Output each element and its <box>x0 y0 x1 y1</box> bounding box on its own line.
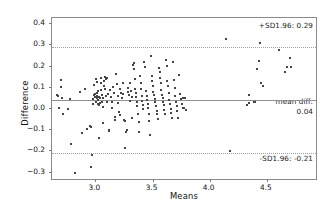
data-point <box>106 77 108 79</box>
data-point <box>163 109 165 111</box>
data-point <box>284 71 286 73</box>
data-point <box>81 132 83 134</box>
data-point <box>96 81 98 83</box>
reference-line-mean-diff <box>52 100 316 101</box>
data-point <box>178 74 180 76</box>
data-point <box>142 108 144 110</box>
y-tick-mark <box>49 23 52 24</box>
x-tick-label: 3.0 <box>79 183 109 192</box>
data-point <box>151 80 153 82</box>
data-point <box>135 92 137 94</box>
upper-loa-annotation: +SD1.96: 0.29 <box>259 21 313 30</box>
y-tick-mark <box>49 150 52 151</box>
data-point <box>149 134 151 136</box>
data-point <box>116 83 118 85</box>
data-point <box>103 80 105 82</box>
data-point <box>170 108 172 110</box>
data-point <box>246 104 248 106</box>
data-point <box>70 143 72 145</box>
y-tick-label: 0.2 <box>19 61 45 70</box>
data-point <box>143 61 145 63</box>
data-point <box>97 90 99 92</box>
data-point <box>176 110 178 112</box>
data-point <box>136 105 138 107</box>
data-point <box>134 88 136 90</box>
data-point <box>150 55 152 57</box>
data-point <box>60 86 62 88</box>
plot-area: +SD1.96: 0.29 mean diff: 0.04 -SD1.96: -… <box>51 17 317 180</box>
data-point <box>174 87 176 89</box>
data-point <box>106 101 108 103</box>
y-tick-mark <box>49 87 52 88</box>
y-tick-label: −0.1 <box>19 124 45 133</box>
data-point <box>61 97 63 99</box>
x-tick-mark <box>267 179 268 182</box>
data-point <box>115 73 117 75</box>
data-point <box>111 107 113 109</box>
data-point <box>146 95 148 97</box>
y-tick-mark <box>49 44 52 45</box>
x-axis-title: Means <box>51 191 317 201</box>
data-point <box>166 65 168 67</box>
data-point <box>122 82 124 84</box>
data-point <box>112 86 114 88</box>
data-point <box>184 97 186 99</box>
data-point <box>141 95 143 97</box>
data-point <box>107 93 109 95</box>
data-point <box>176 105 178 107</box>
data-point <box>129 100 131 102</box>
data-point <box>110 96 112 98</box>
data-point <box>101 94 103 96</box>
data-point <box>135 96 137 98</box>
data-point <box>113 92 115 94</box>
data-point <box>159 77 161 79</box>
data-point <box>98 104 100 106</box>
data-point <box>142 104 144 106</box>
data-point <box>134 78 136 80</box>
reference-line-upper-loa <box>52 47 316 48</box>
x-tick-label: 3.5 <box>137 183 167 192</box>
data-point <box>137 113 139 115</box>
data-point <box>152 85 154 87</box>
data-point <box>140 88 142 90</box>
data-point <box>67 108 69 110</box>
y-tick-label: −0.2 <box>19 145 45 154</box>
data-point <box>93 84 95 86</box>
y-tick-label: −0.3 <box>19 167 45 176</box>
data-point <box>171 117 173 119</box>
y-tick-mark <box>49 66 52 67</box>
data-point <box>95 78 97 80</box>
data-point <box>159 71 161 73</box>
x-tick-label: 4.5 <box>251 183 281 192</box>
data-point <box>166 80 168 82</box>
data-point <box>118 111 120 113</box>
data-point <box>91 154 93 156</box>
data-point <box>162 101 164 103</box>
data-point <box>256 68 258 70</box>
data-point <box>147 103 149 105</box>
data-point <box>160 89 162 91</box>
data-point <box>148 120 150 122</box>
data-point <box>74 172 76 174</box>
data-point <box>278 49 280 51</box>
data-point <box>108 129 110 131</box>
data-point <box>290 66 292 68</box>
data-point <box>170 112 172 114</box>
bland-altman-chart: Difference Means +SD1.96: 0.29 mean diff… <box>0 0 331 206</box>
y-tick-label: 0.0 <box>19 103 45 112</box>
data-point <box>173 79 175 81</box>
x-tick-mark <box>153 179 154 182</box>
data-point <box>117 95 119 97</box>
data-point <box>62 113 64 115</box>
data-point <box>79 91 81 93</box>
mean-diff-annotation-value: 0.04 <box>297 107 313 116</box>
data-point <box>100 77 102 79</box>
data-point <box>162 97 164 99</box>
data-point <box>160 82 162 84</box>
data-point <box>163 104 165 106</box>
data-point <box>136 101 138 103</box>
data-point <box>254 101 256 103</box>
data-point <box>185 109 187 111</box>
data-point <box>248 94 250 96</box>
data-point <box>172 61 174 63</box>
